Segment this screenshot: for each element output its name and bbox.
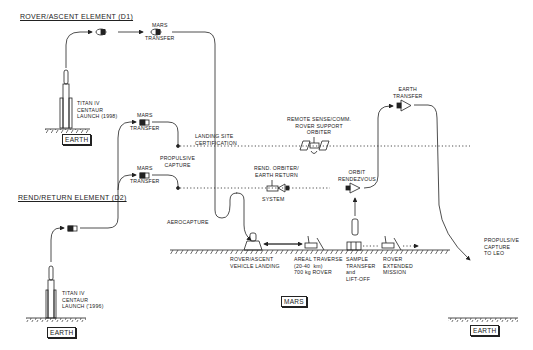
sample-lift-off-icon	[347, 242, 361, 250]
rendezvous-vehicle-icon	[346, 183, 360, 193]
propulsive-capture-label: PROPULSIVE CAPTURE	[160, 155, 195, 168]
d2-launch-label: TITAN IV CENTAUR LAUNCH ('1996)	[62, 290, 104, 310]
mars-box: MARS	[281, 296, 307, 307]
ground-earth-d1	[45, 129, 90, 133]
remote-sense-orbiter-label: REMOTE SENSE/COMM. ROVER SUPPORT ORBITER	[287, 116, 351, 136]
sample-transfer-label: SAMPLE TRANSFER and LIFT-OFF	[346, 256, 376, 282]
d1-element-title: ROVER/ASCENT ELEMENT (D1)	[20, 13, 133, 20]
d1-launch-label: TITAN IV CENTAUR LAUNCH (1998)	[77, 100, 117, 120]
titan-rocket-d2-icon	[46, 266, 56, 318]
propulsive-leo-label: PROPULSIVE CAPTURE TO LEO	[484, 237, 519, 257]
aerocapture-label: AEROCAPTURE	[167, 219, 209, 226]
orbiter-satellite-icon	[300, 137, 329, 154]
titan-rocket-d1-icon	[60, 70, 72, 128]
rend-orbiter-icon	[267, 180, 289, 192]
ground-earth-d2	[26, 318, 86, 322]
mars-transfer-low-label: MARS TRANSFER	[130, 165, 160, 185]
rend-orbiter-label: REND. ORBITER/ EARTH RETURN	[254, 165, 299, 178]
rover-extended-icon	[382, 236, 401, 250]
earth-return-box: EARTH	[470, 325, 499, 336]
spacecraft-d1-icon	[96, 29, 106, 35]
earth-d1-box: EARTH	[62, 134, 91, 145]
landing-site-label: LANDING SITE CERTIFICATION	[195, 133, 237, 146]
rover-landing-label: ROVER/ASCENT VEHICLE LANDING	[230, 256, 280, 269]
d2-element-title: REND/RETURN ELEMENT (D2)	[18, 194, 127, 201]
mars-transfer-mid-label: MARS TRANSFER	[130, 112, 160, 132]
ascent-vehicle-icon	[352, 219, 358, 235]
ground-mars	[170, 250, 450, 254]
rover-extended-label: ROVER EXTENDED MISSION	[383, 256, 413, 276]
earth-d2-box: EARTH	[47, 327, 76, 338]
mars-transfer-top-label: MARS TRANSFER	[145, 22, 175, 42]
earth-transfer-label: EARTH TRANSFER	[393, 86, 423, 99]
orbit-rendezvous-label: ORBIT RENDEZVOUS	[338, 169, 376, 182]
areal-traverse-label: AREAL TRAVERSE (20-40 km) 700 kg ROVER	[294, 256, 343, 276]
d1-ascent-path	[66, 32, 92, 68]
rover-icon	[305, 236, 324, 250]
system-label: SYSTEM	[262, 196, 285, 203]
earth-return-vehicle-icon	[397, 100, 411, 111]
spacecraft-d2-icon	[68, 226, 77, 231]
ground-earth-return	[448, 318, 518, 322]
